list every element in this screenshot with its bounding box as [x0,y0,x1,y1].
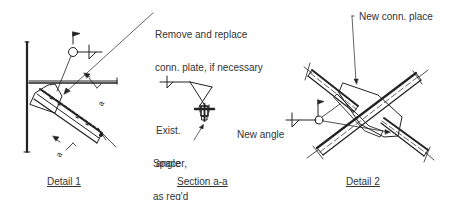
spacer-line2: as req'd [153,191,188,200]
vertical-column [24,42,30,152]
caption-section-a-a: Section a-a [177,176,228,188]
exist-angle-line1: Exist. [156,125,180,136]
remove-replace-line1: Remove and replace [155,29,263,40]
diagonal-brace [34,89,116,147]
diagonal-brace-2 [304,63,434,162]
section-cut-markers [53,73,101,150]
remove-replace-line2: conn. plate, if necessary [155,62,263,73]
spacer-leader [194,125,204,141]
angle-section [195,104,214,121]
caption-detail-1: Detail 1 [47,176,81,188]
spacer-line1: Spacer, [153,158,188,169]
new-conn-place-label: New conn. place [359,11,433,22]
weld-symbol [57,32,102,91]
new-conn-place-leader [352,16,358,84]
new-angle-label: New angle [237,129,284,140]
detail-2-drawing [286,16,434,162]
caption-detail-2: Detail 2 [346,176,380,188]
remove-replace-label: Remove and replace conn. plate, if neces… [155,7,263,84]
detail-1-drawing [24,13,153,152]
horizontal-beam [29,78,117,84]
spacer-label: Spacer, as req'd [153,136,188,200]
